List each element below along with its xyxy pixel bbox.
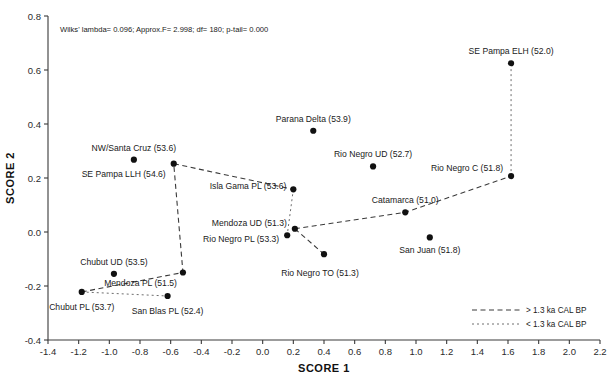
point-label: Catamarca (51.0): [372, 195, 439, 205]
connector-line-younger: [82, 292, 168, 296]
connector-line-older: [295, 229, 324, 254]
data-point[interactable]: Parana Delta (53.9): [276, 114, 351, 134]
point-label: Rio Negro C (51.8): [431, 163, 503, 173]
y-tick-label: -0.4: [25, 335, 41, 346]
x-tick-label: 1.0: [409, 346, 422, 357]
point-label: Parana Delta (53.9): [276, 114, 351, 124]
point-label: San Juan (51.8): [399, 245, 460, 255]
point-marker[interactable]: [131, 157, 137, 163]
point-label: Chubut PL (53.7): [49, 302, 114, 312]
x-tick-label: -0.6: [162, 346, 178, 357]
point-label: Rio Negro UD (52.7): [334, 149, 412, 159]
point-marker[interactable]: [310, 128, 316, 134]
data-point[interactable]: San Blas PL (52.4): [132, 293, 204, 316]
point-marker[interactable]: [508, 60, 514, 66]
legend-label: < 1.3 ka CAL BP: [526, 320, 587, 329]
point-marker[interactable]: [111, 271, 117, 277]
data-point[interactable]: Isla Gama PL (53.6): [210, 181, 297, 192]
x-axis-title: SCORE 1: [298, 362, 350, 374]
x-tick-label: 0.2: [287, 346, 300, 357]
point-marker[interactable]: [290, 186, 296, 192]
data-point[interactable]: Rio Negro UD (52.7): [334, 149, 412, 169]
point-label: NW/Santa Cruz (53.6): [92, 143, 177, 153]
y-tick-label: 0.4: [28, 119, 41, 130]
scatter-plot-figure: 0.80.60.40.20.0-0.2-0.4-1.4-1.2-1.0-0.8-…: [0, 0, 608, 384]
x-tick-label: 1.6: [501, 346, 514, 357]
point-marker[interactable]: [370, 163, 376, 169]
point-label: Rio Negro TO (51.3): [281, 268, 359, 278]
point-marker[interactable]: [79, 289, 85, 295]
point-label: San Blas PL (52.4): [132, 306, 204, 316]
data-point[interactable]: Chubut UD (53.5): [80, 257, 147, 277]
x-tick-label: 2.0: [563, 346, 576, 357]
x-tick-label: -0.8: [132, 346, 148, 357]
x-tick-label: 0.4: [317, 346, 330, 357]
point-marker[interactable]: [427, 234, 433, 240]
data-point[interactable]: Mendoza UD (51.3): [212, 218, 298, 232]
point-marker[interactable]: [180, 269, 186, 275]
data-point[interactable]: Chubut PL (53.7): [49, 289, 114, 312]
data-point[interactable]: Catamarca (51.0): [372, 195, 439, 215]
x-tick-label: -0.4: [193, 346, 209, 357]
point-marker[interactable]: [321, 251, 327, 257]
point-label: Chubut UD (53.5): [80, 257, 147, 267]
y-tick-label: 0.6: [28, 65, 41, 76]
statistics-annotation: Wilks' lambda= 0.096; Approx.F= 2.998; d…: [60, 25, 268, 34]
data-point[interactable]: NW/Santa Cruz (53.6): [92, 143, 177, 163]
legend-label: > 1.3 ka CAL BP: [526, 306, 587, 315]
x-tick-label: 2.2: [593, 346, 606, 357]
point-label: Rio Negro PL (53.3): [203, 234, 279, 244]
point-marker[interactable]: [171, 161, 177, 167]
point-label: SE Pampa ELH (52.0): [469, 46, 554, 56]
x-tick-label: 0.6: [348, 346, 361, 357]
point-marker[interactable]: [508, 173, 514, 179]
point-marker[interactable]: [284, 232, 290, 238]
y-tick-label: 0.0: [28, 227, 41, 238]
point-marker[interactable]: [165, 293, 171, 299]
point-label: Isla Gama PL (53.6): [210, 181, 287, 191]
data-point[interactable]: Rio Negro TO (51.3): [281, 251, 359, 278]
data-point[interactable]: SE Pampa LLH (54.6): [82, 161, 177, 179]
point-marker[interactable]: [292, 226, 298, 232]
plot-canvas: 0.80.60.40.20.0-0.2-0.4-1.4-1.2-1.0-0.8-…: [0, 0, 608, 384]
x-tick-label: -1.2: [70, 346, 86, 357]
data-point[interactable]: Rio Negro C (51.8): [431, 163, 514, 179]
y-tick-label: 0.8: [28, 11, 41, 22]
point-label: SE Pampa LLH (54.6): [82, 169, 166, 179]
data-point[interactable]: Rio Negro PL (53.3): [203, 232, 290, 244]
point-label: Mendoza PL (51.5): [104, 278, 177, 288]
y-tick-label: 0.2: [28, 173, 41, 184]
x-tick-label: 1.4: [471, 346, 484, 357]
x-tick-label: 1.8: [532, 346, 545, 357]
x-tick-label: 0.8: [379, 346, 392, 357]
point-marker[interactable]: [402, 209, 408, 215]
x-tick-label: -1.0: [101, 346, 117, 357]
data-point[interactable]: SE Pampa ELH (52.0): [469, 46, 554, 66]
y-axis-title: SCORE 2: [4, 152, 16, 204]
x-tick-label: 0.0: [256, 346, 269, 357]
x-tick-label: -1.4: [40, 346, 56, 357]
data-point[interactable]: San Juan (51.8): [399, 234, 460, 255]
point-label: Mendoza UD (51.3): [212, 218, 287, 228]
x-tick-label: 1.2: [440, 346, 453, 357]
x-tick-label: -0.2: [224, 346, 240, 357]
y-tick-label: -0.2: [25, 281, 41, 292]
